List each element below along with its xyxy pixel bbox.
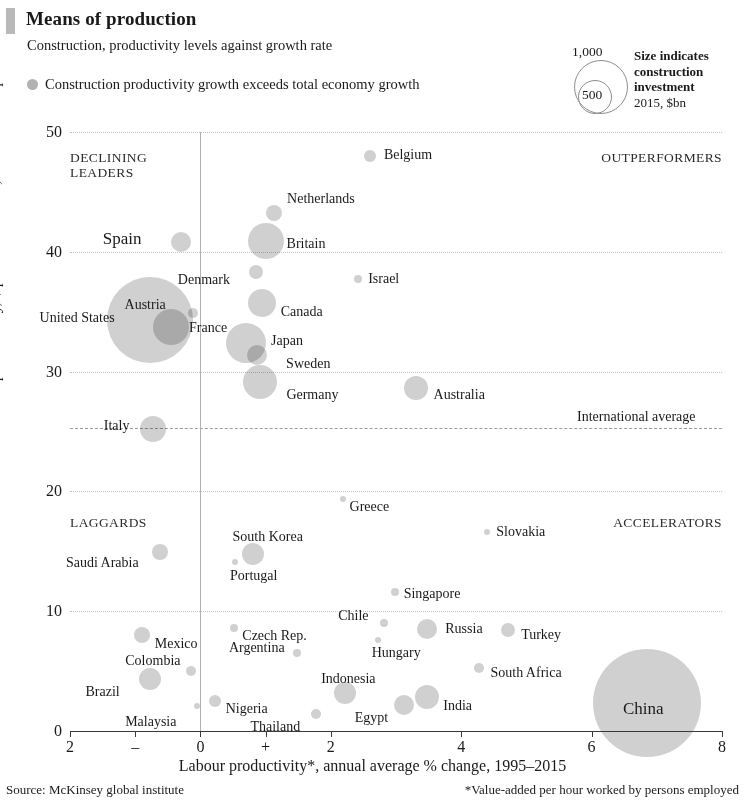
y-tick-label: 20 <box>22 482 62 500</box>
bubble-nigeria[interactable] <box>209 695 221 707</box>
bubble-britain[interactable] <box>248 223 284 259</box>
gridline-y <box>70 611 722 612</box>
quadrant-accelerators: ACCELERATORS <box>613 515 722 530</box>
point-label-sweden: Sweden <box>286 356 330 371</box>
y-tick-label: 40 <box>22 243 62 261</box>
footnote: *Value-added per hour worked by persons … <box>465 782 739 798</box>
size-legend-outer-label: 1,000 <box>572 44 602 60</box>
point-label-slovakia: Slovakia <box>496 524 545 539</box>
bubble-turkey[interactable] <box>501 623 515 637</box>
bubble-hungary[interactable] <box>375 637 381 643</box>
size-legend-description: Size indicates construction investment 2… <box>634 48 745 110</box>
point-label-argentina: Argentina <box>229 640 285 655</box>
bubble-belgium[interactable] <box>364 150 376 162</box>
point-label-denmark: Denmark <box>178 272 230 287</box>
bubble-slovakia[interactable] <box>484 529 490 535</box>
title-accent-bar <box>6 8 15 34</box>
x-tick-label: + <box>261 738 270 756</box>
point-label-india: India <box>443 698 472 713</box>
bubble-saudi-arabia[interactable] <box>152 544 168 560</box>
point-label-japan: Japan <box>271 333 303 348</box>
international-average-line <box>70 428 722 429</box>
point-label-egypt: Egypt <box>355 710 388 725</box>
size-legend-line2: construction <box>634 64 745 80</box>
point-label-spain: Spain <box>103 231 142 246</box>
size-legend-inner-label: 500 <box>582 87 602 103</box>
point-label-portugal: Portugal <box>230 568 277 583</box>
point-label-mexico: Mexico <box>155 636 198 651</box>
point-label-saudi-arabia: Saudi Arabia <box>66 555 139 570</box>
point-label-singapore: Singapore <box>404 586 461 601</box>
point-label-france: France <box>189 320 227 335</box>
bubble-singapore[interactable] <box>391 588 399 596</box>
point-label-belgium: Belgium <box>384 147 432 162</box>
point-label-netherlands: Netherlands <box>287 191 355 206</box>
quadrant-declining-leaders-1: DECLINING <box>70 150 147 165</box>
x-tick-mark <box>722 731 723 737</box>
bubble-italy[interactable] <box>140 416 166 442</box>
bubble-egypt[interactable] <box>394 695 414 715</box>
size-legend-line3: investment <box>634 79 745 95</box>
x-tick-label: 6 <box>588 738 596 756</box>
x-tick-mark <box>266 731 267 737</box>
zero-vertical-line <box>200 132 201 731</box>
x-tick-label: 2 <box>327 738 335 756</box>
bubble-israel[interactable] <box>354 275 362 283</box>
quadrant-outperformers: OUTPERFORMERS <box>601 150 722 165</box>
legend-label: Construction productivity growth exceeds… <box>45 76 420 93</box>
point-label-australia: Australia <box>434 387 485 402</box>
x-tick-mark <box>331 731 332 737</box>
bubble-portugal[interactable] <box>232 559 238 565</box>
gridline-y <box>70 132 722 133</box>
chart-page: Means of production Construction, produc… <box>0 0 745 812</box>
bubble-russia[interactable] <box>417 619 437 639</box>
bubble-sweden[interactable] <box>247 345 267 365</box>
point-label-nigeria: Nigeria <box>226 701 268 716</box>
x-tick-label: 4 <box>457 738 465 756</box>
bubble-chile[interactable] <box>380 619 388 627</box>
size-legend-line1: Size indicates <box>634 48 745 64</box>
x-axis-title: Labour productivity*, annual average % c… <box>0 757 745 775</box>
point-label-germany: Germany <box>286 387 338 402</box>
bubble-greece[interactable] <box>340 496 346 502</box>
bubble-argentina[interactable] <box>293 649 301 657</box>
bubble-denmark[interactable] <box>249 265 263 279</box>
bubble-colombia[interactable] <box>186 666 196 676</box>
point-label-hungary: Hungary <box>372 645 421 660</box>
bubble-austria[interactable] <box>188 308 198 318</box>
bubble-malaysia[interactable] <box>194 703 200 709</box>
point-label-south-africa: South Africa <box>490 665 561 680</box>
point-label-italy: Italy <box>104 418 130 433</box>
bubble-south-africa[interactable] <box>474 663 484 673</box>
point-label-britain: Britain <box>287 236 326 251</box>
bubble-netherlands[interactable] <box>266 205 282 221</box>
bubble-thailand[interactable] <box>311 709 321 719</box>
point-label-chile: Chile <box>338 608 368 623</box>
bubble-czech-rep[interactable] <box>230 624 238 632</box>
bubble-brazil[interactable] <box>139 668 161 690</box>
bubble-spain[interactable] <box>171 232 191 252</box>
x-tick-mark <box>461 731 462 737</box>
point-label-austria: Austria <box>125 297 166 312</box>
x-tick-label: 8 <box>718 738 726 756</box>
quadrant-declining-leaders-2: LEADERS <box>70 165 134 180</box>
y-tick-label: 50 <box>22 123 62 141</box>
y-axis-title: Labour productivity, $ per hour worked, … <box>0 50 4 430</box>
bubble-india[interactable] <box>415 685 439 709</box>
bubble-mexico[interactable] <box>134 627 150 643</box>
point-label-south-korea: South Korea <box>233 529 303 544</box>
legend-bubble-icon <box>27 79 38 90</box>
bubble-australia[interactable] <box>404 376 428 400</box>
size-legend: 1,000 500 Size indicates construction in… <box>560 44 745 122</box>
page-title: Means of production <box>26 8 196 30</box>
y-tick-label: 10 <box>22 602 62 620</box>
point-label-brazil: Brazil <box>86 684 120 699</box>
bubble-germany[interactable] <box>243 365 277 399</box>
plot-area: International averageDECLININGLEADERSOUT… <box>70 132 722 731</box>
bubble-canada[interactable] <box>248 289 276 317</box>
point-label-greece: Greece <box>350 499 390 514</box>
point-label-united-states: United States <box>40 310 115 325</box>
bubble-france[interactable] <box>153 309 189 345</box>
point-label-china: China <box>623 701 664 716</box>
bubble-south-korea[interactable] <box>242 543 264 565</box>
